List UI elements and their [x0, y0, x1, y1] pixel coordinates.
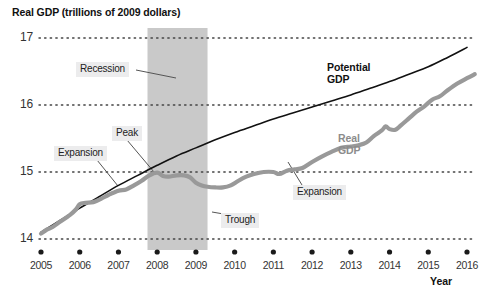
x-axis-tick-2014: 2014 — [370, 259, 410, 271]
x-tick-dot-2008 — [155, 249, 160, 254]
x-axis-tick-2005: 2005 — [21, 259, 61, 271]
x-tick-dot-2015 — [426, 249, 431, 254]
y-axis-tick-16: 16 — [11, 97, 33, 111]
x-axis-tick-2015: 2015 — [408, 259, 448, 271]
x-tick-dot-2014 — [387, 249, 392, 254]
real-gdp-label-line1: Real — [338, 132, 360, 144]
x-tick-dot-2007 — [116, 249, 121, 254]
x-axis-tick-2012: 2012 — [292, 259, 332, 271]
y-axis-tick-14: 14 — [11, 231, 33, 245]
x-axis-tick-2010: 2010 — [215, 259, 255, 271]
potential-gdp-label-line1: Potential — [327, 61, 370, 73]
potential-gdp-label-line2: GDP — [327, 73, 349, 85]
annotation-leader-line — [97, 160, 118, 186]
x-axis-tick-2011: 2011 — [253, 259, 293, 271]
y-axis-tick-17: 17 — [11, 30, 33, 44]
x-axis-title: Year — [430, 275, 452, 287]
potential-gdp-label: Potential GDP — [327, 62, 370, 85]
x-axis-tick-2007: 2007 — [98, 259, 138, 271]
callout-peak: Peak — [112, 126, 142, 141]
annotation-leader-line — [288, 162, 302, 185]
x-tick-dot-2013 — [348, 249, 353, 254]
real-gdp-label: Real GDP — [338, 133, 360, 156]
recession-band — [148, 28, 208, 250]
x-tick-dot-2010 — [232, 249, 237, 254]
callout-expansion-2: Expansion — [293, 185, 346, 200]
callout-recession: Recession — [76, 62, 129, 77]
callout-trough: Trough — [221, 213, 259, 228]
x-tick-dot-2011 — [271, 249, 276, 254]
x-tick-dot-2012 — [309, 249, 314, 254]
x-tick-dot-2006 — [77, 249, 82, 254]
x-axis-tick-dots — [38, 249, 469, 254]
x-axis-tick-2009: 2009 — [176, 259, 216, 271]
callout-expansion-1: Expansion — [54, 146, 107, 161]
x-tick-dot-2016 — [464, 249, 469, 254]
x-tick-dot-2009 — [193, 249, 198, 254]
x-axis-tick-2013: 2013 — [331, 259, 371, 271]
recession-band-group — [148, 28, 208, 250]
x-tick-dot-2005 — [38, 249, 43, 254]
y-axis-tick-15: 15 — [11, 164, 33, 178]
x-axis-tick-2008: 2008 — [137, 259, 177, 271]
real-gdp-label-line2: GDP — [338, 144, 360, 156]
x-axis-tick-2006: 2006 — [60, 259, 100, 271]
x-axis-tick-2016: 2016 — [447, 259, 483, 271]
